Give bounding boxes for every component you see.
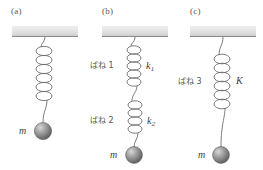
mass-sphere-b bbox=[126, 147, 143, 164]
wire-top-c bbox=[219, 37, 223, 55]
spring-name-label-b-2: ばね 2 bbox=[90, 117, 114, 125]
spring-name-label-b-1: ばね 1 bbox=[90, 62, 114, 70]
panel-b: (b) bbox=[88, 0, 176, 170]
spring-name-label-c: ばね 3 bbox=[178, 78, 202, 86]
spring-constant-subscript-b-2: 2 bbox=[151, 120, 155, 128]
spring-constant-symbol-c: K bbox=[236, 75, 243, 86]
spring-coils-b-1 bbox=[127, 46, 141, 86]
spring-constant-label-c: K bbox=[236, 76, 243, 88]
spring-systems-figure: (a) bbox=[0, 0, 263, 170]
mass-label-a: m bbox=[19, 126, 26, 136]
spring-coils-c bbox=[214, 54, 230, 109]
wire-bottom-b bbox=[134, 133, 138, 147]
spring-coils-a bbox=[36, 46, 52, 100]
spring-constant-label-b-1: k1 bbox=[146, 61, 154, 73]
mass-sphere-c bbox=[213, 147, 230, 164]
mass-label-b: m bbox=[110, 150, 117, 160]
spring-constant-label-b-2: k2 bbox=[147, 116, 155, 128]
wire-middle-b bbox=[132, 86, 137, 101]
spring-mass-drawing-a bbox=[0, 0, 90, 170]
spring-constant-subscript-b-1: 1 bbox=[150, 65, 154, 73]
panel-c: (c) bbox=[176, 0, 263, 170]
wire-bottom-a bbox=[43, 100, 47, 122]
wire-top-a bbox=[41, 37, 45, 47]
spring-coils-b-2 bbox=[128, 101, 142, 133]
wire-top-b bbox=[131, 37, 135, 46]
mass-sphere-a bbox=[34, 122, 51, 139]
wire-bottom-c bbox=[221, 108, 225, 147]
mass-label-c: m bbox=[198, 150, 205, 160]
spring-mass-drawing-b bbox=[88, 0, 176, 170]
panel-a: (a) bbox=[0, 0, 90, 170]
